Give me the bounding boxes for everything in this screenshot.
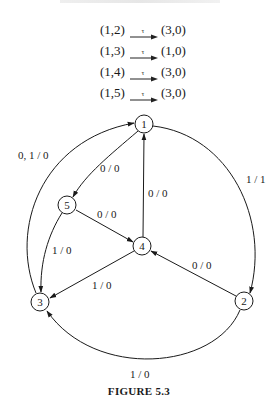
- state-diagram: 0, 1 / 0 1 / 1 0 / 0 0 / 0 0 / 0 1 / 0 1…: [0, 0, 278, 409]
- node-5: 5: [58, 196, 76, 214]
- edge-2-to-4: [151, 251, 236, 296]
- svg-text:2: 2: [241, 295, 247, 307]
- svg-text:5: 5: [64, 199, 70, 211]
- figure-caption: FIGURE 5.3: [0, 385, 278, 397]
- edge-label-3-1: 0, 1 / 0: [18, 149, 49, 161]
- edge-label-1-5: 0 / 0: [100, 162, 120, 174]
- node-2: 2: [235, 292, 253, 310]
- edge-label-5-4: 0 / 0: [97, 208, 117, 220]
- svg-text:1: 1: [141, 118, 147, 130]
- edge-2-to-3: [47, 310, 240, 359]
- edge-label-4-3: 1 / 0: [92, 279, 112, 291]
- node-3: 3: [31, 293, 49, 311]
- svg-text:4: 4: [139, 240, 145, 252]
- edge-label-2-3: 1 / 0: [130, 368, 150, 380]
- edge-label-1-2: 1 / 1: [246, 173, 266, 185]
- edge-label-5-3: 1 / 0: [52, 244, 72, 256]
- svg-text:3: 3: [37, 296, 43, 308]
- node-1: 1: [135, 115, 153, 133]
- edge-4-to-1: [143, 134, 144, 237]
- node-4: 4: [133, 237, 151, 255]
- edge-label-4-1: 0 / 0: [148, 187, 168, 199]
- edge-label-2-4: 0 / 0: [192, 259, 212, 271]
